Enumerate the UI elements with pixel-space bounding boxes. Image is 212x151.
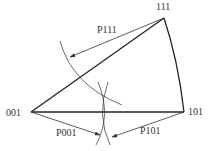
diagram-canvas bbox=[0, 0, 212, 151]
arc-p001 bbox=[102, 82, 110, 145]
arrow-label-p101: P101 bbox=[140, 126, 161, 136]
arrow-label-p111: P111 bbox=[97, 25, 117, 35]
edge-111-101-arc bbox=[164, 18, 184, 112]
vertex-label-101: 101 bbox=[188, 107, 203, 117]
arc-p111 bbox=[60, 41, 122, 105]
vertex-label-111: 111 bbox=[156, 2, 170, 12]
arrow-label-p001: P001 bbox=[56, 128, 77, 138]
arc-p101 bbox=[96, 82, 105, 145]
stereographic-triangle-diagram: 111 001 101 P111 P001 P101 bbox=[0, 0, 212, 151]
vertex-label-001: 001 bbox=[6, 108, 21, 118]
